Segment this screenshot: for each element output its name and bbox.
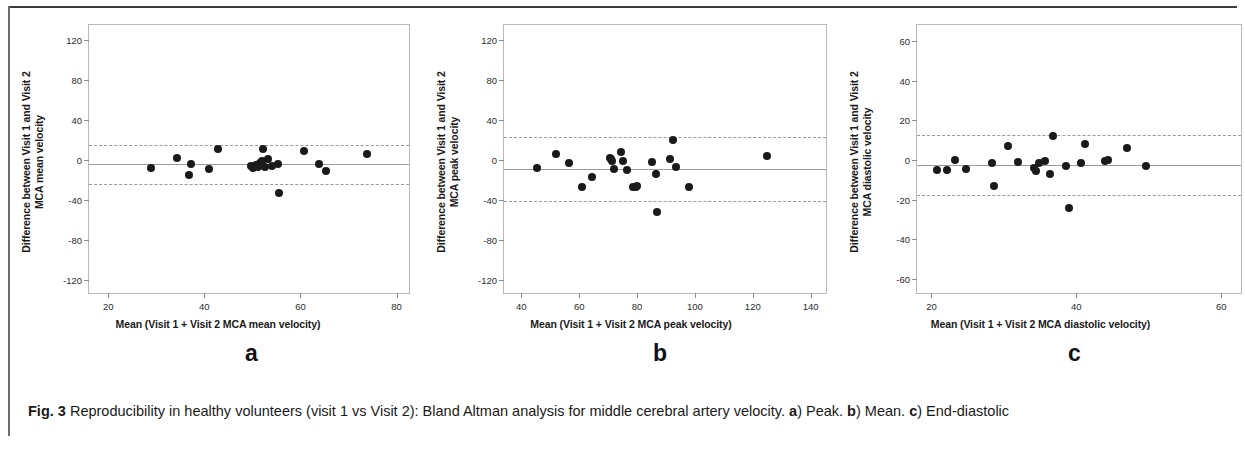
scatter-point (933, 166, 941, 174)
y-axis-tick-label: 40 (486, 115, 497, 126)
x-axis-tick-label: 140 (803, 301, 819, 312)
scatter-point (275, 189, 283, 197)
scatter-point (685, 183, 693, 191)
y-axis-tick (499, 160, 504, 161)
x-axis-tick-label: 20 (926, 301, 937, 312)
y-axis-tick-label: 120 (481, 35, 497, 46)
x-axis-tick (637, 293, 638, 298)
y-axis-tick (499, 280, 504, 281)
y-axis-tick-label: -40 (68, 195, 82, 206)
x-axis-tick-label: 80 (391, 301, 402, 312)
y-axis-tick (499, 120, 504, 121)
panel-a: Difference between Visit 1 and Visit 2 M… (0, 0, 420, 395)
x-axis-tick (397, 293, 398, 298)
scatter-point (1077, 159, 1085, 167)
y-axis-tick (84, 280, 89, 281)
x-axis-tick-label: 40 (516, 301, 527, 312)
y-axis-tick-label: 0 (905, 155, 910, 166)
caption-text-b: ) Mean. (856, 403, 909, 419)
y-axis-tick (912, 81, 917, 82)
scatter-point (648, 158, 656, 166)
scatter-point (990, 182, 998, 190)
mean-bias (504, 169, 826, 170)
panel-c-plot-area: 6040200-20-40-60204060 (916, 24, 1242, 294)
panel-c-letter: c (1068, 340, 1081, 367)
x-axis-tick (300, 293, 301, 298)
x-axis-tick (931, 293, 932, 298)
panel-a-x-axis-title: Mean (Visit 1 + Visit 2 MCA mean velocit… (8, 318, 428, 330)
panel-a-y-axis-title: Difference between Visit 1 and Visit 2 M… (20, 28, 56, 296)
scatter-point (533, 164, 541, 172)
scatter-point (1123, 144, 1131, 152)
scatter-point (578, 183, 586, 191)
scatter-point (1014, 158, 1022, 166)
scatter-point (1041, 157, 1049, 165)
scatter-point (617, 148, 625, 156)
scatter-point (552, 150, 560, 158)
caption-marker-c: c (909, 403, 917, 419)
y-axis-tick-label: -80 (483, 235, 497, 246)
x-axis-tick-label: 60 (1216, 301, 1227, 312)
scatter-point (1032, 167, 1040, 175)
y-axis-tick-label: -120 (478, 275, 497, 286)
panel-b: Difference between Visit 1 and Visit 2 M… (415, 0, 835, 395)
x-axis-tick (811, 293, 812, 298)
y-axis-tick (84, 240, 89, 241)
y-axis-tick-label: -40 (483, 195, 497, 206)
x-axis-tick (579, 293, 580, 298)
scatter-point (1004, 142, 1012, 150)
y-axis-tick (84, 160, 89, 161)
scatter-point (363, 150, 371, 158)
x-axis-tick (521, 293, 522, 298)
scatter-point (1142, 162, 1150, 170)
scatter-point (1046, 170, 1054, 178)
lower-limit-of-agreement (89, 184, 409, 185)
scatter-point (1081, 140, 1089, 148)
y-axis-tick (912, 239, 917, 240)
y-axis-tick-label: 80 (71, 75, 82, 86)
scatter-point (322, 167, 330, 175)
scatter-point (653, 208, 661, 216)
scatter-point (187, 160, 195, 168)
panel-c: Difference between Visit 1 and Visit 2 M… (828, 0, 1245, 395)
y-axis-tick-label: 0 (492, 155, 497, 166)
scatter-point (173, 154, 181, 162)
y-axis-tick-label: 40 (899, 75, 910, 86)
scatter-point (608, 157, 616, 165)
scatter-point (259, 145, 267, 153)
y-axis-tick (912, 120, 917, 121)
x-axis-tick-label: 80 (632, 301, 643, 312)
x-axis-tick (204, 293, 205, 298)
panel-b-letter: b (653, 340, 667, 367)
scatter-point (623, 166, 631, 174)
y-axis-tick-label: 0 (77, 155, 82, 166)
scatter-point (633, 182, 641, 190)
scatter-point (763, 152, 771, 160)
scatter-point (315, 160, 323, 168)
y-axis-tick (912, 160, 917, 161)
y-axis-tick (84, 120, 89, 121)
scatter-point (274, 160, 282, 168)
y-axis-tick-label: 60 (899, 35, 910, 46)
x-axis-tick (1076, 293, 1077, 298)
scatter-point (610, 165, 618, 173)
panel-a-plot-area: 12080400-40-80-12020406080 (88, 24, 410, 294)
y-axis-tick (499, 240, 504, 241)
scatter-point (619, 157, 627, 165)
caption-marker-a: a (789, 403, 797, 419)
y-axis-tick (912, 279, 917, 280)
caption-figure-number: Fig. 3 (28, 403, 66, 419)
x-axis-tick-label: 60 (295, 301, 306, 312)
x-axis-tick (1221, 293, 1222, 298)
y-axis-tick (499, 80, 504, 81)
y-axis-tick (84, 80, 89, 81)
panel-c-x-axis-title: Mean (Visit 1 + Visit 2 MCA diastolic ve… (832, 318, 1245, 330)
y-axis-tick (912, 200, 917, 201)
y-axis-tick-label: -120 (63, 275, 82, 286)
panel-a-letter: a (245, 340, 258, 367)
y-axis-tick-label: 40 (71, 115, 82, 126)
figure-container: Difference between Visit 1 and Visit 2 M… (0, 0, 1245, 460)
scatter-point (1049, 132, 1057, 140)
scatter-point (1065, 204, 1073, 212)
caption-marker-b: b (847, 403, 856, 419)
